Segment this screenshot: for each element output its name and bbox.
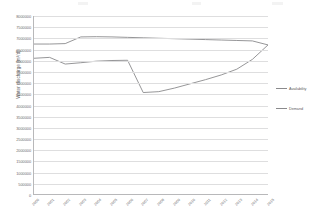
y-tick-label: 1500000	[3, 159, 31, 164]
gridline	[34, 27, 268, 28]
gridline	[34, 72, 268, 73]
y-tick-label: 500000	[3, 181, 31, 186]
gridline	[34, 117, 268, 118]
x-tick-label: 2001	[47, 198, 56, 207]
series-line-demand	[34, 45, 268, 93]
gridline	[34, 83, 268, 84]
gridline	[34, 139, 268, 140]
y-tick-label: 2000000	[3, 148, 31, 153]
y-tick-label: 6500000	[3, 47, 31, 52]
y-tick-label: 5000000	[3, 81, 31, 86]
x-tick-label: 2006	[125, 198, 134, 207]
gridline	[34, 38, 268, 39]
legend-item[interactable]: Demand	[276, 104, 319, 113]
legend: AvailabilityDemand	[276, 84, 319, 124]
x-tick-label: 2012	[219, 198, 228, 207]
x-tick-label: 2013	[235, 198, 244, 207]
gridline	[34, 94, 268, 95]
gridline	[34, 61, 268, 62]
y-tick-label: 4500000	[3, 92, 31, 97]
y-tick-label: 0	[3, 193, 31, 198]
x-tick-label: 2014	[251, 198, 260, 207]
x-tick-label: 2003	[78, 198, 87, 207]
y-tick-label: 7500000	[3, 25, 31, 30]
x-tick-label: 2004	[94, 198, 103, 207]
legend-label: Availability	[289, 87, 306, 91]
scan-artifact	[272, 2, 283, 5]
scan-artifact	[78, 2, 88, 5]
x-tick-label: 2000	[31, 198, 40, 207]
gridline	[34, 50, 268, 51]
y-tick-label: 7000000	[3, 36, 31, 41]
y-tick-label: 3500000	[3, 114, 31, 119]
gridline	[34, 16, 268, 17]
gridline	[34, 106, 268, 107]
y-tick-label: 4000000	[3, 103, 31, 108]
scan-artifact	[192, 2, 201, 5]
x-axis-tick-labels: 2000200120022003200420052006200720082009…	[33, 198, 268, 223]
x-tick-label: 2015	[266, 198, 275, 207]
x-tick-label: 2008	[157, 198, 166, 207]
x-tick-label: 2007	[141, 198, 150, 207]
legend-color-swatch	[276, 108, 287, 109]
y-tick-label: 3000000	[3, 125, 31, 130]
x-tick-label: 2011	[204, 198, 212, 206]
x-tick-label: 2002	[63, 198, 72, 207]
y-axis-tick-labels: 8000000750000070000006500000600000055000…	[0, 0, 31, 223]
gridline	[34, 173, 268, 174]
gridline	[34, 150, 268, 151]
legend-item[interactable]: Availability	[276, 84, 319, 93]
gridline	[34, 161, 268, 162]
gridline	[34, 128, 268, 129]
gridline	[34, 184, 268, 185]
y-tick-label: 6000000	[3, 58, 31, 63]
chart-root: Water discharge [m³/d] 80000007500000700…	[0, 0, 319, 223]
plot-area	[33, 16, 268, 195]
y-tick-label: 2500000	[3, 137, 31, 142]
x-tick-label: 2010	[188, 198, 197, 207]
legend-label: Demand	[289, 107, 303, 111]
x-tick-label: 2009	[172, 198, 181, 207]
legend-color-swatch	[276, 88, 287, 89]
y-tick-label: 8000000	[3, 14, 31, 19]
y-tick-label: 5500000	[3, 69, 31, 74]
y-tick-label: 1000000	[3, 170, 31, 175]
x-tick-label: 2005	[110, 198, 119, 207]
